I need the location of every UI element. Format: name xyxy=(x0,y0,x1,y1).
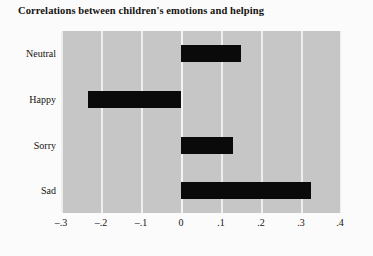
xtick-label-0-1: .1 xyxy=(201,216,241,230)
gridline-neg-0-3 xyxy=(61,31,63,213)
bar-sorry xyxy=(181,137,233,154)
xtick-label-zero: 0 xyxy=(161,216,201,230)
value-axis: –.3 –.2 –.1 0 .1 .2 .3 .4 xyxy=(61,216,341,232)
xtick-label-neg-0-3: –.3 xyxy=(41,216,81,230)
category-axis: Neutral Happy Sorry Sad xyxy=(0,31,56,213)
bar-neutral xyxy=(181,45,241,62)
gridline-0-4 xyxy=(340,31,342,213)
chart-figure: Correlations between children's emotions… xyxy=(0,0,373,256)
category-label-sad: Sad xyxy=(0,185,56,197)
gridline-neg-0-2 xyxy=(101,31,103,213)
xtick-label-0-3: .3 xyxy=(281,216,321,230)
xtick-label-0-4: .4 xyxy=(320,216,360,230)
gridline-neg-0-1 xyxy=(141,31,143,213)
xtick-label-neg-0-1: –.1 xyxy=(121,216,161,230)
category-label-neutral: Neutral xyxy=(0,48,56,60)
bar-sad xyxy=(181,182,311,199)
bar-happy xyxy=(88,91,181,108)
plot-area xyxy=(61,31,341,213)
category-label-happy: Happy xyxy=(0,94,56,106)
xtick-label-neg-0-2: –.2 xyxy=(81,216,121,230)
xtick-label-0-2: .2 xyxy=(241,216,281,230)
chart-title: Correlations between children's emotions… xyxy=(18,4,358,18)
category-label-sorry: Sorry xyxy=(0,140,56,152)
